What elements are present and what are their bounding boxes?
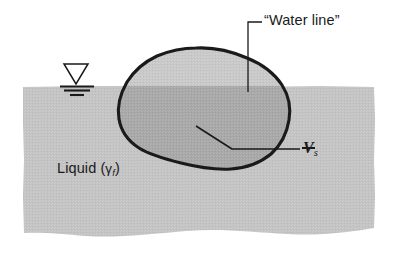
water-surface-level-icon bbox=[60, 64, 94, 95]
floating-body bbox=[118, 48, 289, 169]
free-surface-triangle bbox=[64, 64, 88, 84]
diagram-canvas bbox=[0, 0, 396, 260]
figure-floating-body: “Water line” Liquid (γf) Vs bbox=[0, 0, 396, 260]
